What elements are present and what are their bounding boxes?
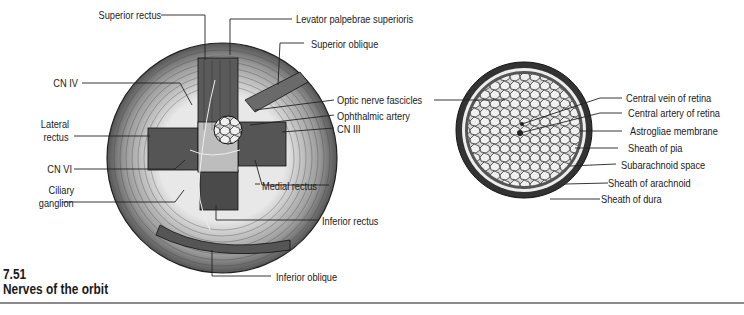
label-superior-oblique: Superior oblique (311, 38, 378, 50)
label-sheath-of-dura: Sheath of dura (601, 193, 662, 205)
figure-title: Nerves of the orbit (3, 281, 108, 297)
label-ciliary-ganglion-line1: Ciliary (48, 184, 74, 196)
label-ophthalmic-artery: Ophthalmic artery (337, 110, 410, 122)
label-lateral-rectus-line1: Lateral (41, 118, 69, 130)
label-cn-vi: CN VI (47, 163, 72, 175)
label-inferior-oblique: Inferior oblique (276, 271, 337, 283)
label-medial-rectus: Medial rectus (262, 180, 317, 192)
label-levator-palpebrae-superioris: Levator palpebrae superioris (296, 13, 413, 25)
label-inferior-rectus: Inferior rectus (322, 215, 378, 227)
label-sheath-of-arachnoid: Sheath of arachnoid (608, 177, 691, 189)
label-superior-rectus: Superior rectus (98, 9, 161, 21)
label-central-vein-of-retina: Central vein of retina (626, 92, 711, 104)
label-ciliary-ganglion-line2: ganglion (39, 197, 74, 209)
label-lateral-rectus-line2: rectus (44, 131, 69, 143)
label-cn-iii: CN III (337, 123, 361, 135)
label-cn-iv: CN IV (53, 77, 78, 89)
figure-number: 7.51 (3, 266, 26, 282)
orbit-illustration (107, 43, 337, 273)
caption-divider (0, 302, 744, 304)
optic-nerve-cross-section (456, 62, 592, 198)
label-subarachnoid-space: Subarachnoid space (621, 159, 705, 171)
label-astrogliae-membrane: Astrogliae membrane (630, 125, 718, 137)
label-optic-nerve-fascicles: Optic nerve fascicles (337, 94, 422, 106)
label-sheath-of-pia: Sheath of pia (628, 142, 682, 154)
label-central-artery-of-retina: Central artery of retina (628, 107, 720, 119)
